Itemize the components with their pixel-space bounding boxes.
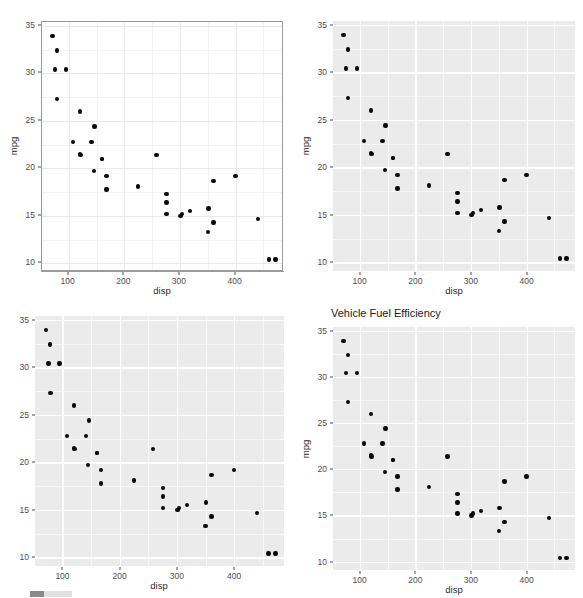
scatter-point (71, 140, 75, 144)
x-tick-label: 200 (408, 576, 422, 585)
scatter-point (55, 97, 59, 101)
x-tick-mark (234, 567, 235, 570)
gridline-major-vertical (471, 327, 472, 570)
scatter-point (89, 140, 93, 144)
gridline-major-horizontal (42, 73, 282, 74)
scatter-point (72, 447, 76, 451)
scatter-point (547, 216, 551, 220)
y-tick-mark (32, 367, 35, 368)
x-tick-mark (526, 571, 527, 574)
scatter-point (256, 217, 260, 221)
scatter-point (564, 556, 568, 560)
gridline-major-horizontal (333, 120, 575, 121)
x-tick-mark (178, 272, 179, 275)
y-tick-label: 30 (11, 363, 29, 372)
scatter-point (206, 206, 210, 210)
gridline-major-vertical (360, 21, 361, 271)
scatter-point (497, 229, 501, 233)
scatter-point (445, 454, 449, 458)
gridline-minor-vertical (152, 22, 153, 270)
plot-panel-bottom-right (333, 327, 575, 570)
scatter-point (185, 503, 189, 507)
scatter-point (178, 214, 182, 218)
y-tick-mark (38, 167, 41, 168)
x-tick-label: 100 (61, 277, 75, 286)
scatter-point (164, 212, 168, 216)
scatter-point (455, 511, 459, 515)
gridline-major-vertical (180, 22, 181, 270)
scatter-point (209, 514, 213, 518)
y-tick-mark (38, 214, 41, 215)
scatter-point (161, 494, 165, 498)
plot-panel-bottom-left (35, 316, 284, 566)
gridline-major-horizontal (333, 25, 575, 26)
gridline-minor-vertical (263, 22, 264, 270)
y-tick-label: 20 (17, 163, 35, 172)
gridline-major-horizontal (35, 462, 284, 463)
gridline-minor-vertical (554, 21, 555, 271)
scatter-point (95, 451, 99, 455)
gridline-major-horizontal (333, 377, 575, 378)
gridline-minor-vertical (388, 327, 389, 570)
plot-panel-top-left (41, 21, 283, 271)
scatter-point (369, 152, 373, 156)
scatter-point (395, 487, 399, 491)
y-tick-mark (32, 557, 35, 558)
footer-artifact (30, 591, 72, 597)
scatter-point (92, 124, 96, 128)
scatter-point (380, 139, 384, 143)
x-tick-mark (415, 272, 416, 275)
y-tick-mark (38, 119, 41, 120)
y-tick-label: 35 (11, 316, 29, 325)
y-tick-label: 35 (309, 326, 327, 335)
scatter-point (395, 173, 399, 177)
y-tick-mark (32, 462, 35, 463)
y-tick-mark (32, 509, 35, 510)
gridline-minor-vertical (443, 21, 444, 271)
y-tick-mark (330, 24, 333, 25)
scatter-point (346, 400, 350, 404)
scatter-point (44, 328, 48, 332)
x-axis-title-bottom-right: disp (445, 585, 462, 595)
scatter-point (427, 183, 431, 187)
x-tick-label: 300 (464, 576, 478, 585)
scatter-point (99, 481, 103, 485)
y-tick-label: 25 (11, 411, 29, 420)
scatter-point (209, 473, 213, 477)
y-axis-title-top-right: mpg (301, 137, 311, 155)
plot-bottom-left: 101520253035100200300400 disp (0, 299, 291, 598)
scatter-point (455, 199, 459, 203)
gridline-minor-horizontal (35, 486, 284, 487)
gridline-major-horizontal (35, 510, 284, 511)
x-tick-label: 400 (520, 576, 534, 585)
gridline-major-horizontal (35, 557, 284, 558)
scatter-point (50, 34, 54, 38)
gridline-minor-vertical (148, 316, 149, 566)
y-tick-label: 10 (309, 258, 327, 267)
y-tick-label: 25 (309, 419, 327, 428)
scatter-point (344, 371, 348, 375)
y-tick-label: 15 (309, 211, 327, 220)
y-tick-label: 10 (11, 553, 29, 562)
scatter-point (502, 178, 506, 182)
gridline-minor-vertical (554, 327, 555, 570)
scatter-point (383, 426, 387, 430)
x-tick-mark (359, 272, 360, 275)
gridline-major-horizontal (42, 216, 282, 217)
scatter-point (72, 403, 76, 407)
scatter-point (99, 468, 103, 472)
x-tick-label: 200 (116, 277, 130, 286)
scatter-point (564, 256, 568, 260)
scatter-point (395, 474, 399, 478)
gridline-major-horizontal (333, 331, 575, 332)
scatter-point (362, 139, 366, 143)
gridline-minor-horizontal (333, 96, 575, 97)
gridline-major-vertical (177, 316, 178, 566)
y-tick-mark (330, 376, 333, 377)
x-tick-mark (359, 571, 360, 574)
scatter-point (455, 492, 459, 496)
y-tick-mark (330, 561, 333, 562)
plot-title-bottom-right: Vehicle Fuel Efficiency (331, 308, 441, 319)
scatter-point (341, 339, 345, 343)
x-tick-mark (123, 272, 124, 275)
